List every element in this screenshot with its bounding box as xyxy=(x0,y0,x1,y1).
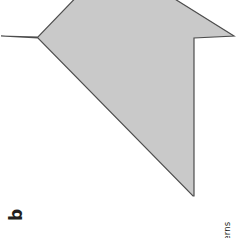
footer-unit-label: Unit 5: Shapes and Patterns xyxy=(223,222,232,238)
part-label-b: b xyxy=(1,201,31,229)
arrow-polygon-shape xyxy=(1,0,234,196)
arrow-polygon-figure xyxy=(0,0,244,238)
figure-page: b Unit 5: Shapes and Patterns xyxy=(0,0,244,238)
footer-unit-title: Shapes and Patterns xyxy=(222,222,232,238)
